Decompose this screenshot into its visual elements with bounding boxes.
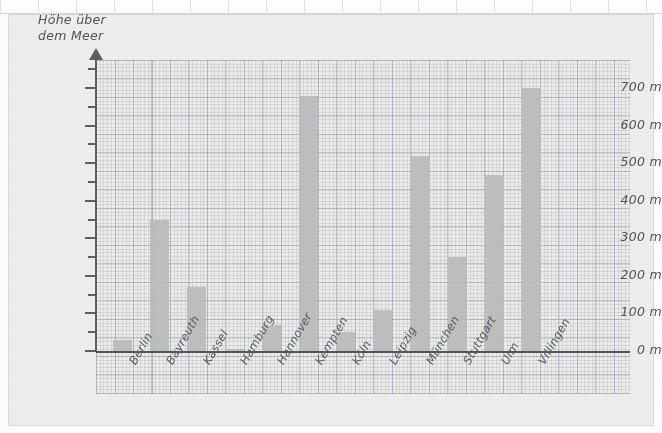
y-axis-title: Höhe über dem Meer [38,12,106,44]
chart-screenshot: Höhe über dem Meer 0 m100 m200 m300 m400… [0,0,662,433]
y-tick-minor [88,256,96,258]
y-tick-major [85,125,96,127]
y-tick-minor [88,219,96,221]
y-tick-label: 400 m [584,192,662,207]
y-tick-label: 600 m [584,117,662,132]
y-tick-label: 100 m [584,304,662,319]
y-tick-label: 200 m [584,267,662,282]
y-tick-major [85,162,96,164]
y-tick-label: 700 m [584,79,662,94]
y-tick-minor [88,106,96,108]
bar [522,88,541,351]
bar [373,310,392,351]
y-tick-minor [88,181,96,183]
bar [225,349,244,351]
y-tick-major [85,200,96,202]
y-tick-major [85,275,96,277]
y-tick-major [85,237,96,239]
y-tick-minor [88,331,96,333]
y-axis-arrow-icon [89,48,103,60]
y-tick-label: 0 m [584,342,662,357]
y-tick-label: 500 m [584,154,662,169]
y-tick-major [85,350,96,352]
y-tick-label: 300 m [584,229,662,244]
bar [113,340,132,351]
y-tick-minor [88,68,96,70]
y-tick-minor [88,143,96,145]
bar [150,220,169,351]
bar [411,156,430,351]
y-tick-minor [88,294,96,296]
y-tick-major [85,87,96,89]
y-tick-major [85,312,96,314]
y-axis-line [95,56,97,352]
